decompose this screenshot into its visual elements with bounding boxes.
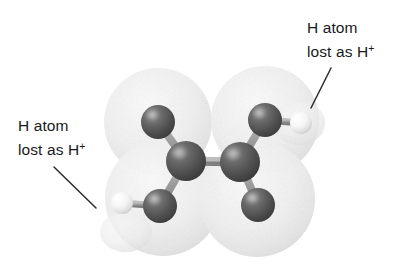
atom-oxygen-upper-right (248, 103, 282, 137)
atom-oxygen-lower-right (241, 188, 275, 222)
atom-carbon-right (220, 142, 260, 182)
leader-line-left (54, 167, 96, 208)
highlight-carbon-left (173, 148, 185, 157)
atom-oxygen-upper-left (141, 105, 175, 139)
annotation-top-right-line1: H atom (307, 16, 374, 40)
annotation-left-line1: H atom (18, 114, 85, 138)
atom-hydrogen-right (290, 112, 312, 134)
annotation-top-right-line2-text: lost as H (307, 43, 368, 60)
highlight-hydrogen-left (114, 196, 121, 202)
annotation-left-charge: + (79, 140, 85, 152)
atom-oxygen-lower-left (143, 189, 177, 223)
annotation-top-right: H atom lost as H+ (307, 16, 374, 64)
highlight-oxygen-lower-left (149, 195, 159, 203)
atom-carbon-left (166, 141, 206, 181)
highlight-oxygen-upper-right (254, 109, 264, 117)
cloud-tail-left (100, 212, 152, 252)
highlight-hydrogen-right (293, 116, 300, 122)
highlight-oxygen-upper-left (147, 111, 157, 119)
annotation-top-right-line2: lost as H+ (307, 40, 374, 64)
annotation-left: H atom lost as H+ (18, 114, 85, 162)
figure-canvas: H atom lost as H+ H atom lost as H+ (0, 0, 414, 272)
leader-line-top-right (311, 68, 331, 108)
atom-hydrogen-left (111, 192, 133, 214)
highlight-oxygen-lower-right (247, 194, 257, 202)
annotation-left-line2: lost as H+ (18, 138, 85, 162)
annotation-left-line2-text: lost as H (18, 141, 79, 158)
highlight-carbon-right (227, 149, 239, 158)
annotation-top-right-charge: + (368, 42, 374, 54)
